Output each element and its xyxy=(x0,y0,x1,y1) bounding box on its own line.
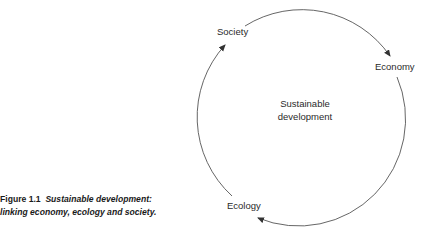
caption-title-line1: Sustainable development: xyxy=(45,194,152,204)
arrow-ecology-to-society xyxy=(197,45,232,196)
node-ecology: Ecology xyxy=(227,200,261,211)
arrow-society-to-economy xyxy=(245,10,390,56)
center-label: Sustainable development xyxy=(260,97,350,123)
node-economy: Economy xyxy=(375,61,415,72)
node-society: Society xyxy=(217,26,248,37)
center-label-line2: development xyxy=(260,110,350,123)
center-label-line1: Sustainable xyxy=(260,97,350,110)
figure-caption: Figure 1.1 Sustainable development: link… xyxy=(0,193,200,219)
caption-label: Figure 1.1 xyxy=(0,194,41,204)
caption-line1: Figure 1.1 Sustainable development: xyxy=(0,193,200,206)
caption-title-line2: linking economy, ecology and society. xyxy=(0,206,200,219)
